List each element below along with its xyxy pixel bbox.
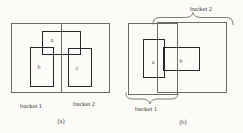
fig-a-rect-a-label: a [51,37,54,43]
fig-a-rect-c-label: c [76,65,79,71]
fig-b-bucket2-label: bucket 2 [190,5,212,12]
fig-a-rect-c [68,48,92,87]
fig-b-caption: (b) [179,118,187,125]
fig-b-bucket1-label: bucket 1 [135,105,157,112]
fig-b-rect-a-label: a [152,59,155,65]
fig-a-caption: (a) [57,117,64,124]
figure-canvas: a b c bucket 1 bucket 2 (a) a b bucket 2… [0,0,243,133]
fig-a-rect-b [30,47,54,87]
fig-a-rect-b-label: b [38,64,41,70]
fig-a-bucket1-label: bucket 1 [20,102,42,109]
fig-b-rect-b-label: b [180,58,183,64]
fig-a-bucket2-label: bucket 2 [73,100,95,107]
